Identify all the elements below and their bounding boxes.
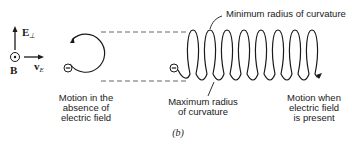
circular-orbit-path	[70, 34, 105, 72]
right-caption: Motion when electric field is present	[281, 93, 347, 123]
electron-right-icon	[170, 64, 178, 72]
b-field-label: B	[10, 64, 17, 76]
e-field-arrow-icon	[13, 26, 18, 50]
electron-left-icon	[64, 64, 72, 72]
leader-min-radius	[210, 16, 222, 29]
e-field-label: E⊥	[22, 26, 35, 40]
drift-velocity-label: vE	[34, 60, 44, 74]
min-radius-annotation: Minimum radius of curvature	[226, 9, 346, 19]
left-caption: Motion in the absence of electric field	[55, 93, 117, 123]
leader-max-radius	[208, 82, 214, 96]
drift-velocity-arrow-icon	[24, 55, 44, 60]
max-radius-annotation: Maximum radius of curvature	[162, 97, 244, 117]
panel-label: (b)	[166, 128, 190, 138]
diagram-canvas	[0, 0, 352, 145]
helical-drift-path	[178, 30, 322, 80]
b-field-out-of-page-icon	[11, 53, 20, 62]
